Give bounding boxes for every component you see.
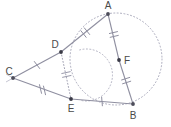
tick-mark-segment-E-B bbox=[102, 97, 103, 106]
point-label-E: E bbox=[68, 103, 75, 114]
point-label-C: C bbox=[5, 66, 12, 77]
point-label-F: F bbox=[124, 55, 130, 66]
point-dot-F bbox=[117, 58, 121, 62]
point-dot-E bbox=[69, 97, 73, 101]
segment-C-E bbox=[13, 78, 71, 99]
point-dot-B bbox=[131, 102, 135, 106]
circumcircle-A-B-dotted bbox=[70, 13, 162, 105]
point-label-A: A bbox=[105, 0, 112, 11]
point-dot-D bbox=[59, 50, 63, 54]
tick-mark-segment-C-E bbox=[39, 84, 45, 95]
tick-mark-segment-C-D bbox=[34, 61, 40, 69]
point-label-D: D bbox=[51, 39, 58, 50]
point-label-B: B bbox=[130, 110, 137, 121]
tick-mark-segment-A-F bbox=[109, 32, 119, 38]
geometry-figure: A B C D E F bbox=[0, 0, 171, 127]
segment-F-B bbox=[119, 60, 133, 104]
tick-mark-segment-D-E bbox=[61, 72, 71, 78]
point-dot-A bbox=[106, 12, 110, 16]
segment-D-A bbox=[61, 14, 108, 52]
tick-mark-segment-F-B bbox=[121, 77, 131, 84]
geometry-canvas: A B C D E F bbox=[0, 0, 171, 127]
